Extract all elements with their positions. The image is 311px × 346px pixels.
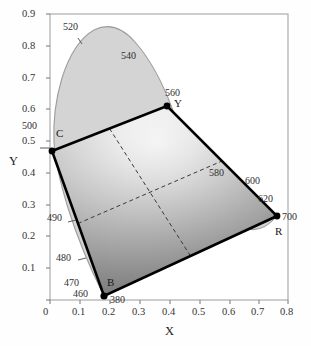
wavelength-label-540: 540 [121, 51, 136, 61]
y-tick-0_7: 0.7 [22, 73, 35, 84]
y-axis-label: Y [9, 155, 18, 168]
wavelength-label-580: 580 [209, 168, 224, 178]
vertex-dot-c [49, 148, 56, 155]
gamut-vertex-label-b: B [107, 277, 114, 288]
y-tick-0_3: 0.3 [22, 200, 35, 211]
gamut-vertex-label-r: R [275, 226, 282, 237]
x-tick-0_4: 0.4 [162, 307, 175, 318]
wavelength-label-620: 620 [258, 194, 273, 204]
y-axis-ticks [46, 14, 50, 300]
x-tick-0_6: 0.6 [222, 307, 235, 318]
wavelength-label-460: 460 [73, 289, 88, 299]
x-tick-0_7: 0.7 [251, 307, 264, 318]
wavelength-label-380: 380 [110, 295, 125, 305]
x-tick-0_8: 0.8 [280, 307, 293, 318]
chromaticity-diagram: 0.9 0.8 0.7 0.6 0.5 0.4 0.3 0.2 0.1 0 0.… [0, 0, 311, 346]
wavelength-label-520: 520 [63, 22, 78, 32]
wavelength-label-490: 490 [47, 213, 62, 223]
vertex-dot-y [164, 103, 171, 110]
y-tick-0: 0 [43, 307, 48, 318]
wavelength-label-600: 600 [245, 176, 260, 186]
y-tick-0_1: 0.1 [22, 263, 35, 274]
x-axis-label: X [165, 325, 174, 338]
y-tick-0_4: 0.4 [22, 168, 35, 179]
vertex-dot-r [274, 213, 281, 220]
x-tick-0_3: 0.3 [132, 307, 145, 318]
x-axis-ticks [50, 300, 288, 304]
gamut-vertex-label-c: C [56, 128, 63, 139]
y-tick-0_5: 0.5 [22, 136, 35, 147]
y-tick-0_8: 0.8 [22, 41, 35, 52]
y-tick-0_2: 0.2 [22, 231, 35, 242]
x-tick-0_2: 0.2 [102, 307, 115, 318]
wavelength-label-700: 700 [282, 212, 297, 222]
y-tick-0_9: 0.9 [22, 9, 35, 20]
wavelength-label-470: 470 [64, 278, 79, 288]
y-tick-0_6: 0.6 [22, 104, 35, 115]
vertex-dot-b [100, 292, 107, 299]
x-tick-0_1: 0.1 [72, 307, 85, 318]
wavelength-label-480: 480 [56, 253, 71, 263]
gamut-vertex-label-y: Y [174, 98, 182, 109]
wavelength-label-500: 500 [22, 121, 37, 131]
chart-canvas [0, 0, 311, 346]
x-tick-0_5: 0.5 [192, 307, 205, 318]
